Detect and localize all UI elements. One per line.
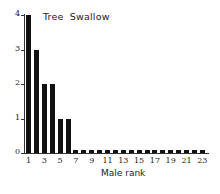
y-tick-label: 2 <box>10 78 20 87</box>
bar-rank-9 <box>89 150 94 153</box>
bar-rank-8 <box>81 150 86 153</box>
bar-rank-10 <box>97 150 102 153</box>
bar-chart: Tree Swallow 01234 1357911131517192123 M… <box>0 0 220 194</box>
bar-rank-17 <box>152 150 157 153</box>
bar-rank-21 <box>184 150 189 153</box>
bar-rank-4 <box>50 84 55 153</box>
x-tick-label: 19 <box>164 156 178 165</box>
y-tick-mark <box>21 50 24 51</box>
bar-rank-11 <box>105 150 110 153</box>
x-axis <box>24 153 209 154</box>
chart-title: Tree Swallow <box>43 11 110 22</box>
bar-rank-23 <box>200 150 205 153</box>
bar-rank-16 <box>145 150 150 153</box>
x-tick-label: 17 <box>148 156 162 165</box>
y-tick-mark <box>21 84 24 85</box>
x-tick-label: 23 <box>195 156 209 165</box>
x-tick-label: 5 <box>53 156 67 165</box>
bar-rank-1 <box>26 15 31 153</box>
x-tick-label: 15 <box>132 156 146 165</box>
x-tick-label: 9 <box>85 156 99 165</box>
bar-rank-7 <box>73 150 78 153</box>
y-tick-mark <box>21 119 24 120</box>
y-tick-mark <box>21 15 24 16</box>
y-tick-label: 4 <box>10 9 20 18</box>
y-tick-mark <box>21 153 24 154</box>
bar-rank-18 <box>160 150 165 153</box>
bar-rank-20 <box>176 150 181 153</box>
x-axis-label: Male rank <box>101 168 145 178</box>
bar-rank-6 <box>66 119 71 154</box>
bar-rank-2 <box>34 50 39 154</box>
x-tick-label: 21 <box>180 156 194 165</box>
y-tick-label: 1 <box>10 113 20 122</box>
bar-rank-12 <box>113 150 118 153</box>
x-tick-label: 3 <box>37 156 51 165</box>
x-tick-label: 1 <box>22 156 36 165</box>
x-tick-label: 7 <box>69 156 83 165</box>
y-tick-label: 0 <box>10 147 20 156</box>
x-tick-label: 11 <box>101 156 115 165</box>
bar-rank-5 <box>58 119 63 154</box>
bar-rank-22 <box>192 150 197 153</box>
bar-rank-3 <box>42 84 47 153</box>
y-axis <box>24 14 25 154</box>
bar-rank-14 <box>129 150 134 153</box>
bar-rank-15 <box>137 150 142 153</box>
bar-rank-13 <box>121 150 126 153</box>
x-tick-label: 13 <box>116 156 130 165</box>
bar-rank-19 <box>168 150 173 153</box>
y-tick-label: 3 <box>10 44 20 53</box>
